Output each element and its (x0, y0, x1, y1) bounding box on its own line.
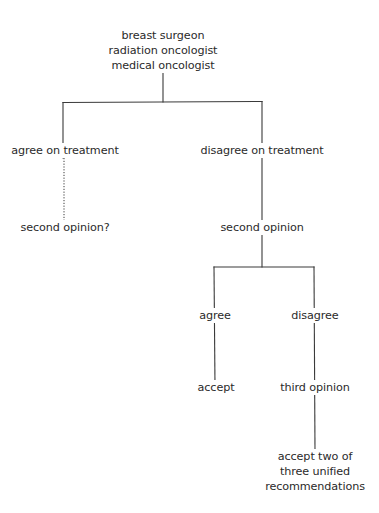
agree-label: agree (199, 308, 231, 323)
node-disagree-on-treatment: disagree on treatment (199, 143, 324, 158)
root-line-breast-surgeon: breast surgeon (109, 28, 218, 43)
edge-disagree-to-final (314, 267, 315, 451)
node-root-specialists: breast surgeon radiation oncologist medi… (108, 28, 219, 73)
root-line-radiation-oncologist: radiation oncologist (109, 43, 218, 58)
node-third-opinion: third opinion (279, 380, 351, 395)
root-line-medical-oncologist: medical oncologist (109, 58, 218, 73)
second-opinion-question-label: second opinion? (20, 220, 109, 235)
node-second-opinion: second opinion (219, 220, 304, 235)
connector-lines (0, 0, 379, 513)
node-agree: agree (198, 308, 232, 323)
disagree-label: disagree (291, 308, 338, 323)
edge-first-split-bar (63, 102, 262, 103)
third-opinion-label: third opinion (280, 380, 350, 395)
edge-agree-to-accept (214, 267, 215, 386)
final-line-recommendations: recommendations (265, 479, 365, 494)
disagree-on-treatment-label: disagree on treatment (200, 143, 323, 158)
final-line-three-unified: three unified (265, 464, 365, 479)
node-second-opinion-question: second opinion? (19, 220, 110, 235)
accept-label: accept (198, 380, 235, 395)
node-agree-on-treatment: agree on treatment (10, 143, 119, 158)
node-accept-two-of-three: accept two of three unified recommendati… (264, 449, 366, 494)
second-opinion-label: second opinion (220, 220, 303, 235)
agree-on-treatment-label: agree on treatment (11, 143, 118, 158)
node-accept: accept (197, 380, 236, 395)
node-disagree: disagree (290, 308, 339, 323)
treatment-decision-tree: breast surgeon radiation oncologist medi… (0, 0, 379, 513)
final-line-accept-two-of: accept two of (265, 449, 365, 464)
